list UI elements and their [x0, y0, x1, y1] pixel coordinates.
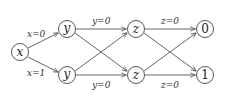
node-out-1-label: 1 — [201, 68, 209, 82]
edge-label-x1: x=1 — [27, 68, 45, 78]
branching-diagram: x=0 x=1 y=0 y=0 z=0 z=0 x y y z z 0 1 — [0, 0, 227, 99]
node-z-bottom-label: z — [132, 68, 140, 82]
edge-label-x0: x=0 — [27, 29, 46, 39]
edge-label-y0-top: y=0 — [91, 16, 111, 26]
node-x-label: x — [17, 45, 24, 59]
node-out-0-label: 0 — [201, 22, 209, 36]
node-y-bottom-label: y — [63, 67, 71, 81]
node-z-top-label: z — [132, 22, 140, 36]
edge-label-z0-bottom: z=0 — [160, 80, 179, 90]
edge-label-y0-bottom: y=0 — [91, 80, 111, 90]
edge-label-z0-top: z=0 — [160, 16, 179, 26]
node-y-top-label: y — [63, 21, 71, 35]
